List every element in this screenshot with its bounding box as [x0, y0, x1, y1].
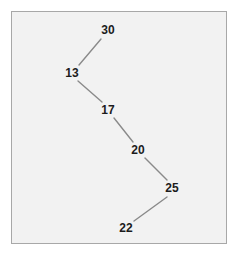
diagram-panel — [11, 11, 227, 244]
node-label-17: 17 — [101, 104, 114, 116]
node-label-22: 22 — [119, 222, 132, 234]
node-label-25: 25 — [165, 182, 178, 194]
node-label-20: 20 — [131, 144, 144, 156]
node-label-30: 30 — [101, 24, 114, 36]
node-label-13: 13 — [65, 67, 78, 79]
figure-root: 301317202522 — [0, 0, 239, 256]
